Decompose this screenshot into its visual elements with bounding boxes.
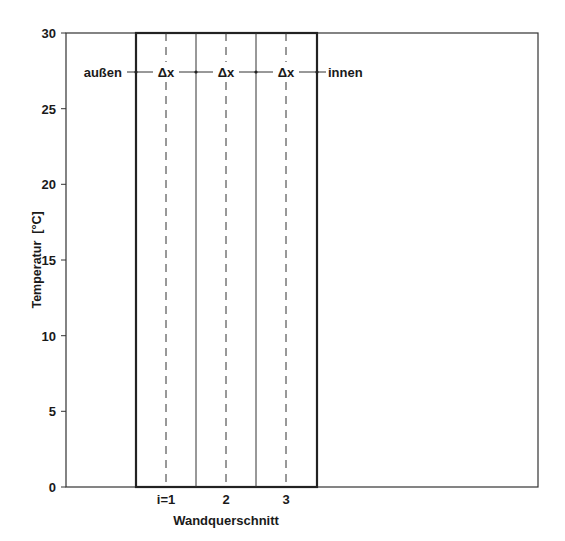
x-axis-tick-labels: i=1 2 3 [157, 492, 290, 507]
y-tick-5: 5 [49, 404, 56, 419]
outside-label: außen [84, 65, 122, 80]
y-tick-30: 30 [42, 26, 56, 41]
y-tick-10: 10 [42, 329, 56, 344]
x-tick-1: i=1 [157, 492, 175, 507]
x-tick-3: 3 [282, 492, 289, 507]
diagram-canvas: 30 25 20 15 10 5 0 Temperatur [°C] Δx [0, 0, 565, 541]
delta-x-labels: Δx Δx Δx [158, 65, 295, 80]
x-tick-2: 2 [222, 492, 229, 507]
delta-x-label-3: Δx [278, 65, 295, 80]
delta-x-label-2: Δx [218, 65, 235, 80]
inside-label: innen [328, 65, 363, 80]
x-axis-label: Wandquerschnitt [173, 513, 279, 528]
y-axis-label: Temperatur [°C] [30, 211, 44, 308]
node-centerlines [166, 33, 286, 487]
y-tick-20: 20 [42, 177, 56, 192]
y-axis-ticks [61, 33, 66, 487]
y-tick-0: 0 [49, 480, 56, 495]
delta-x-label-1: Δx [158, 65, 175, 80]
y-tick-25: 25 [42, 102, 56, 117]
